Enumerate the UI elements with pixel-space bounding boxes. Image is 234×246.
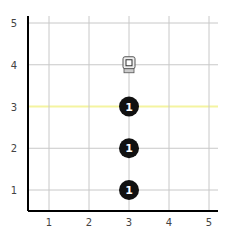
x-tick-label: 3 [126, 217, 132, 228]
token[interactable]: 1 [119, 97, 139, 117]
x-tick-label: 2 [86, 217, 92, 228]
game-board: 12345 12345 111 [0, 0, 234, 246]
token[interactable]: 1 [119, 138, 139, 158]
svg-text:1: 1 [125, 184, 133, 197]
y-tick-label: 1 [11, 185, 17, 196]
y-tick-label: 3 [11, 102, 17, 113]
token[interactable]: 1 [119, 180, 139, 200]
pieces: 111 [119, 97, 139, 201]
svg-text:1: 1 [125, 142, 133, 155]
x-tick-label: 5 [206, 217, 212, 228]
svg-text:1: 1 [125, 101, 133, 114]
y-tick-label: 4 [11, 60, 17, 71]
robot-icon [123, 57, 135, 73]
y-tick-labels: 12345 [11, 18, 17, 196]
x-tick-label: 4 [166, 217, 172, 228]
x-tick-label: 1 [46, 217, 52, 228]
y-tick-label: 5 [11, 18, 17, 29]
y-tick-label: 2 [11, 143, 17, 154]
x-tick-labels: 12345 [46, 217, 212, 228]
